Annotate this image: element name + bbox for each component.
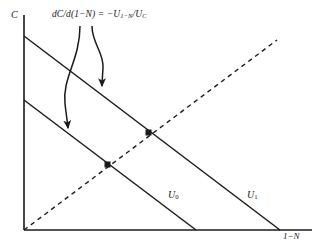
- arrow-to-u1: [92, 26, 103, 86]
- curve-label-u0-sub: 0: [175, 193, 178, 200]
- slope-formula-sub-numerator: 1−N: [120, 12, 132, 19]
- curve-label-u1: U1: [247, 190, 258, 201]
- x-axis-label: 1−N: [283, 232, 300, 241]
- curve-label-u0: U0: [168, 190, 179, 201]
- tangency-point-high: [146, 130, 152, 136]
- slope-formula-divider: /U: [133, 9, 143, 19]
- slope-formula-annotation: dC/d(1−N) = −U1−N/UC: [52, 10, 147, 20]
- curve-label-u1-sub: 1: [254, 193, 257, 200]
- figure-container: dC/d(1−N) = −U1−N/UC C 1−N U0 U1: [0, 0, 320, 251]
- tangency-point-low: [105, 162, 111, 168]
- slope-formula-main: dC/d(1−N) = −U: [52, 9, 120, 19]
- y-axis-label: C: [11, 10, 18, 20]
- figure-canvas: [0, 0, 320, 251]
- slope-formula-sub-denominator: C: [142, 12, 147, 19]
- curve-u1: [24, 36, 280, 230]
